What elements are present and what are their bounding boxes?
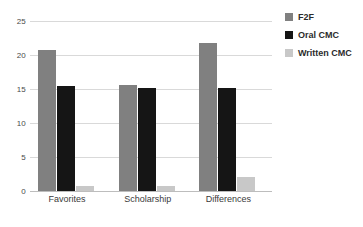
chart-legend: F2FOral CMCWritten CMC xyxy=(285,12,363,66)
legend-swatch-icon xyxy=(285,13,293,21)
y-tick-label-25: 25 xyxy=(17,17,26,26)
legend-swatch-icon xyxy=(285,49,293,57)
y-tick-label-5: 5 xyxy=(21,153,26,162)
y-tick-label-10: 10 xyxy=(17,119,26,128)
legend-item[interactable]: F2F xyxy=(285,12,363,22)
gridline-0 xyxy=(30,191,272,192)
y-tick-label-15: 15 xyxy=(17,85,26,94)
bar-chart: 0510152025 FavoritesScholarshipDifferenc… xyxy=(0,0,363,227)
x-tick-label: Differences xyxy=(206,194,251,204)
bar[interactable] xyxy=(119,85,137,191)
x-axis-category-labels: FavoritesScholarshipDifferences xyxy=(30,194,272,214)
bar-group xyxy=(191,21,272,191)
bar-group xyxy=(111,21,192,191)
bar[interactable] xyxy=(218,88,236,191)
plot-area xyxy=(30,21,272,191)
bar[interactable] xyxy=(199,43,217,191)
bar-group xyxy=(30,21,111,191)
legend-label: Written CMC xyxy=(298,48,352,58)
y-axis-tick-labels: 0510152025 xyxy=(0,21,26,191)
legend-label: F2F xyxy=(298,12,314,22)
legend-item[interactable]: Oral CMC xyxy=(285,30,363,40)
y-tick-label-0: 0 xyxy=(21,187,26,196)
bar[interactable] xyxy=(57,86,75,191)
x-tick-label: Scholarship xyxy=(124,194,171,204)
bar[interactable] xyxy=(157,186,175,191)
legend-label: Oral CMC xyxy=(298,30,339,40)
bar[interactable] xyxy=(237,177,255,191)
y-tick-label-20: 20 xyxy=(17,51,26,60)
bar[interactable] xyxy=(76,186,94,191)
bar[interactable] xyxy=(138,88,156,191)
bar[interactable] xyxy=(38,50,56,191)
legend-swatch-icon xyxy=(285,31,293,39)
legend-item[interactable]: Written CMC xyxy=(285,48,363,58)
x-tick-label: Favorites xyxy=(48,194,85,204)
bars-layer xyxy=(30,21,272,191)
